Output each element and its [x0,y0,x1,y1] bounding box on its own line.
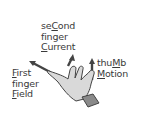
left-hand-icon [48,66,99,107]
current-arrow-icon [68,54,75,66]
field-arrow-icon [29,61,50,72]
hand-illustration [0,0,153,117]
